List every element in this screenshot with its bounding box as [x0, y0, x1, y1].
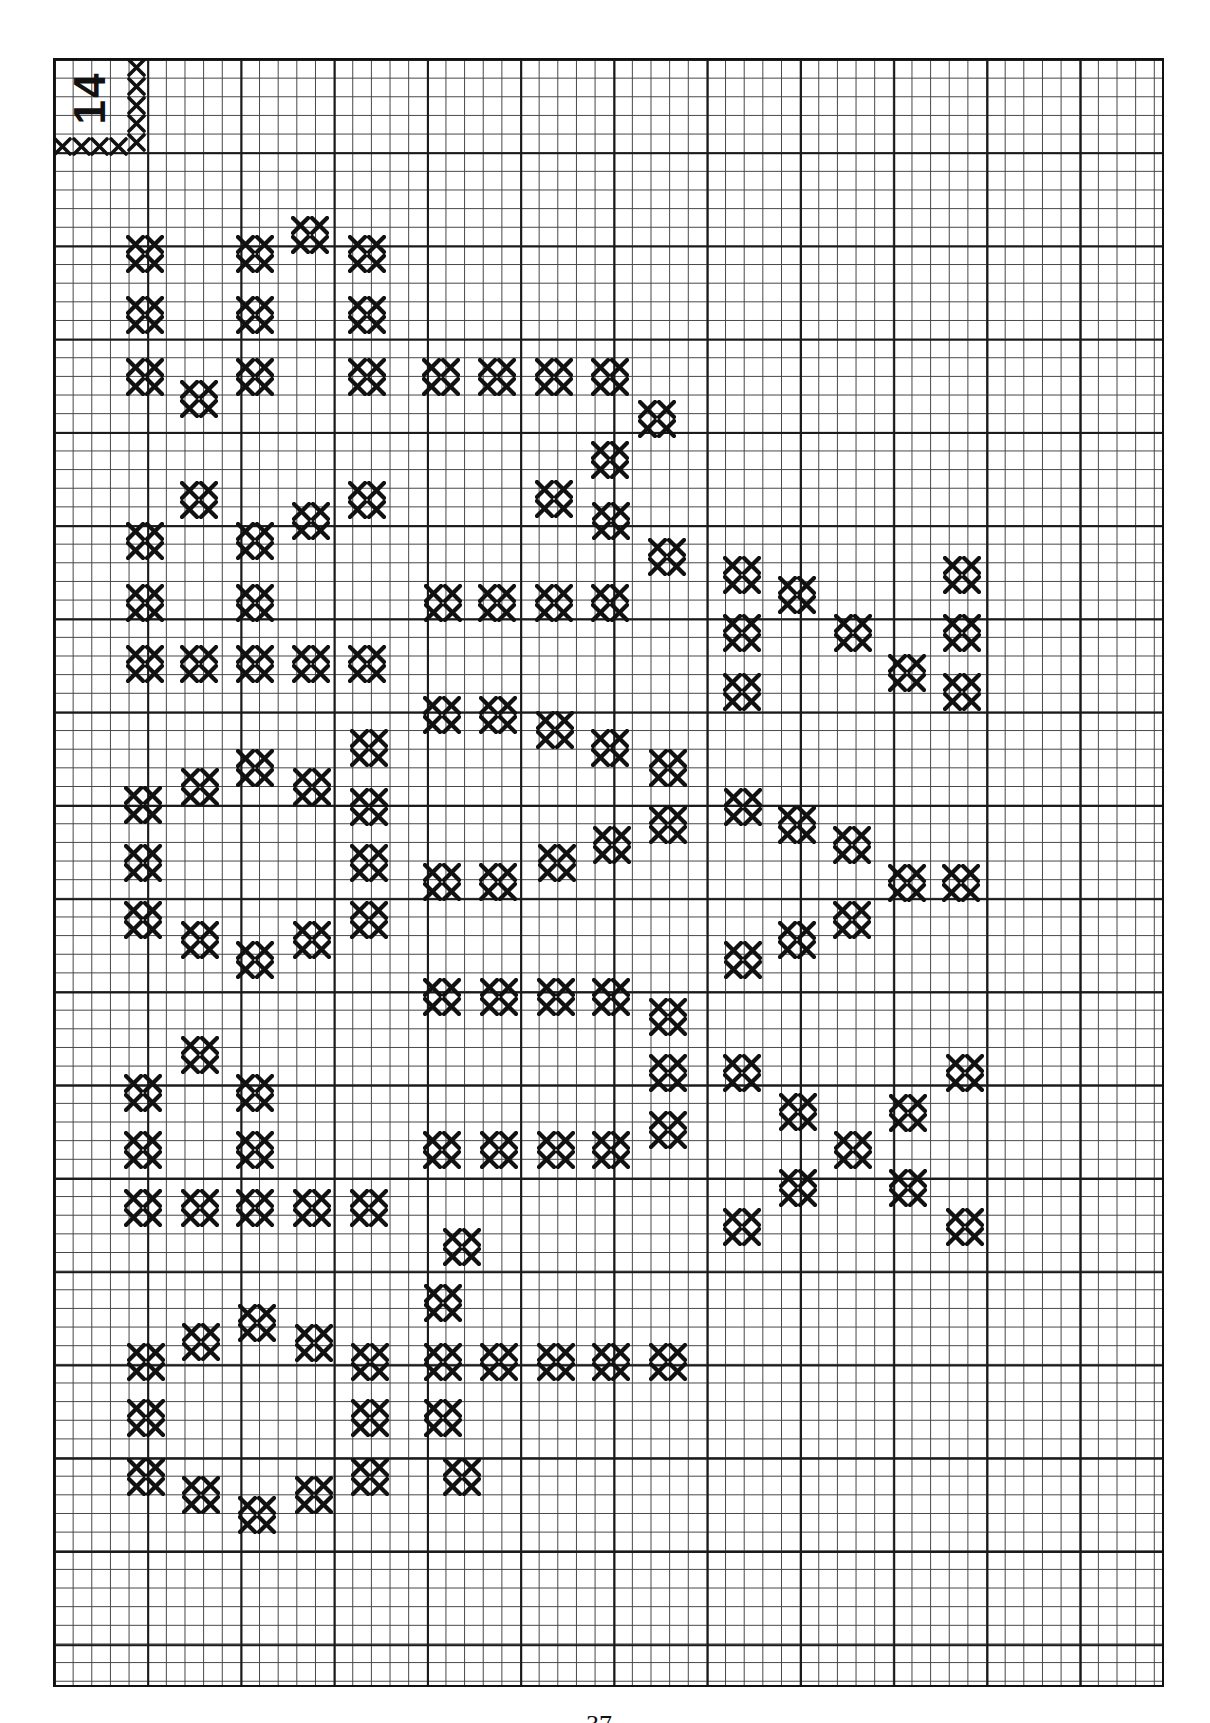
border-stitch-icon — [127, 77, 146, 96]
cross-stitch-icon — [591, 441, 629, 479]
cross-stitch-icon — [424, 1399, 462, 1437]
cross-stitch-icon — [946, 1208, 984, 1246]
cross-stitch-icon — [834, 614, 872, 652]
cross-stitch-icon — [593, 826, 631, 864]
cross-stitch-icon — [592, 1131, 630, 1169]
cross-stitch-icon — [724, 941, 762, 979]
cross-stitch-icon — [480, 978, 518, 1016]
cross-stitch-icon — [127, 1458, 165, 1496]
cross-stitch-icon — [535, 358, 573, 396]
border-stitch-icon — [127, 133, 146, 152]
cross-stitch-icon — [182, 1476, 220, 1514]
cross-stitch-icon — [291, 216, 329, 254]
cross-stitch-icon — [943, 673, 981, 711]
cross-stitch-icon — [351, 1343, 389, 1381]
cross-stitch-icon — [236, 296, 274, 334]
cross-stitch-icon — [236, 235, 274, 273]
cross-stitch-icon — [942, 864, 980, 902]
cross-stitch-icon — [236, 941, 274, 979]
border-stitch-icon — [109, 137, 128, 156]
cross-stitch-icon — [478, 584, 516, 622]
cross-stitch-icon — [424, 1343, 462, 1381]
cross-stitch-icon — [591, 584, 629, 622]
cross-stitch-icon — [180, 481, 218, 519]
cross-stitch-icon — [724, 788, 762, 826]
cross-stitch-icon — [833, 901, 871, 939]
cross-stitch-icon — [126, 235, 164, 273]
cross-stitch-icon — [236, 749, 274, 787]
pattern-number-label: 14 — [58, 62, 122, 134]
cross-stitch-icon — [295, 1324, 333, 1362]
cross-stitch-icon — [888, 654, 926, 692]
cross-stitch-icon — [351, 1399, 389, 1437]
cross-stitch-icon — [649, 998, 687, 1036]
cross-stitch-icon — [592, 502, 630, 540]
cross-stitch-icon — [124, 844, 162, 882]
border-stitch-icon — [127, 58, 146, 77]
cross-stitch-icon — [778, 806, 816, 844]
cross-stitch-icon — [293, 768, 331, 806]
cross-stitch-icon — [424, 584, 462, 622]
cross-stitch-icon — [943, 556, 981, 594]
pattern-number-text: 14 — [65, 72, 115, 125]
cross-stitch-icon — [537, 978, 575, 1016]
cross-stitch-icon — [537, 1131, 575, 1169]
cross-stitch-icon — [238, 1496, 276, 1534]
cross-stitch-icon — [180, 380, 218, 418]
cross-stitch-icon — [833, 826, 871, 864]
cross-stitch-icon — [236, 358, 274, 396]
cross-stitch-icon — [293, 921, 331, 959]
cross-stitch-icon — [649, 1111, 687, 1149]
cross-stitch-icon — [236, 1074, 274, 1112]
cross-stitch-icon — [350, 1189, 388, 1227]
cross-stitch-icon — [295, 1476, 333, 1514]
cross-stitch-icon — [778, 576, 816, 614]
cross-stitch-icon — [236, 1189, 274, 1227]
cross-stitch-icon — [649, 749, 687, 787]
cross-stitch-icon — [181, 1036, 219, 1074]
border-stitch-icon — [53, 137, 72, 156]
cross-stitch-icon — [126, 358, 164, 396]
cross-stitch-icon — [127, 1343, 165, 1381]
cross-stitch-icon — [124, 1189, 162, 1227]
cross-stitch-icon — [778, 921, 816, 959]
cross-stitch-icon — [181, 768, 219, 806]
cross-stitch-icon — [124, 786, 162, 824]
cross-stitch-icon — [723, 556, 761, 594]
cross-stitch-icon — [591, 358, 629, 396]
cross-stitch-icon — [126, 522, 164, 560]
cross-stitch-icon — [292, 502, 330, 540]
cross-stitch-icon — [943, 614, 981, 652]
cross-stitch-icon — [648, 538, 686, 576]
cross-stitch-icon — [127, 1399, 165, 1437]
cross-stitch-icon — [723, 673, 761, 711]
cross-stitch-icon — [479, 863, 517, 901]
border-stitch-icon — [127, 114, 146, 133]
cross-stitch-icon — [348, 296, 386, 334]
cross-stitch-icon — [126, 645, 164, 683]
cross-stitch-icon — [350, 901, 388, 939]
cross-stitch-icon — [888, 864, 926, 902]
cross-stitch-icon — [478, 358, 516, 396]
cross-stitch-icon — [238, 1304, 276, 1342]
cross-stitch-icon — [535, 584, 573, 622]
border-stitch-icon — [72, 137, 91, 156]
cross-stitch-icon — [535, 480, 573, 518]
cross-stitch-icon — [124, 901, 162, 939]
cross-stitch-icon — [350, 788, 388, 826]
cross-stitch-icon — [124, 1131, 162, 1169]
cross-stitch-icon — [537, 1343, 575, 1381]
cross-stitch-icon — [293, 1189, 331, 1227]
cross-stitch-icon — [649, 806, 687, 844]
cross-stitch-icon — [889, 1169, 927, 1207]
cross-stitch-icon — [536, 711, 574, 749]
cross-stitch-icon — [538, 844, 576, 882]
cross-stitch-icon — [422, 358, 460, 396]
graph-paper-grid — [53, 58, 1164, 1687]
cross-stitch-icon — [638, 400, 676, 438]
cross-stitch-icon — [723, 1208, 761, 1246]
cross-stitch-icon — [723, 1054, 761, 1092]
cross-stitch-icon — [779, 1169, 817, 1207]
cross-stitch-icon — [779, 1093, 817, 1131]
cross-stitch-icon — [591, 729, 629, 767]
